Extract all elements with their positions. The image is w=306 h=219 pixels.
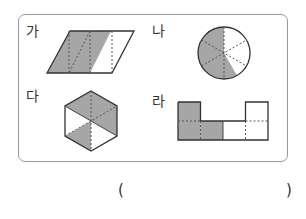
answer-close-paren: ) [286,183,292,198]
shaded-region-left [178,102,201,140]
answer-blank[interactable] [130,183,280,199]
shaded-region-mid [201,121,224,140]
answer-open-paren: ( [118,183,124,198]
